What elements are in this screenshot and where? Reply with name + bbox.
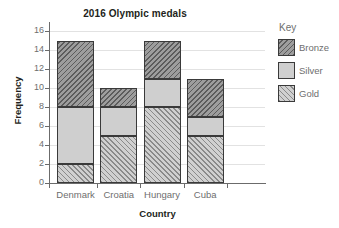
x-axis-title: Country xyxy=(49,208,266,219)
y-tick-label-wrap: 6 xyxy=(0,121,44,130)
bar-segment-denmark-silver xyxy=(57,107,94,164)
legend-item-bronze[interactable]: Bronze xyxy=(278,37,339,57)
legend: Key BronzeSilverGold xyxy=(278,22,339,106)
legend-swatch-silver xyxy=(278,62,295,79)
y-tick-label: 6 xyxy=(10,121,44,130)
legend-item-silver[interactable]: Silver xyxy=(278,60,339,80)
bar-segment-hungary-bronze xyxy=(144,41,181,79)
y-tick-label-wrap: 14 xyxy=(0,45,44,54)
y-tick-label-wrap: 16 xyxy=(0,26,44,35)
chart-title: 2016 Olympic medals xyxy=(0,8,270,19)
legend-label-bronze: Bronze xyxy=(299,42,329,53)
y-tick-label-wrap: 10 xyxy=(0,83,44,92)
x-tick-label-cuba: Cuba xyxy=(175,190,235,200)
y-tick-mark xyxy=(45,145,49,146)
bar-segment-hungary-gold xyxy=(144,107,181,183)
chart-container: 2016 Olympic medals Frequency 0246810121… xyxy=(0,0,339,228)
bar-segment-croatia-silver xyxy=(100,107,137,135)
y-tick-label: 4 xyxy=(10,140,44,149)
legend-item-gold[interactable]: Gold xyxy=(278,83,339,103)
bar-hungary xyxy=(144,22,181,183)
bar-segment-denmark-bronze xyxy=(57,41,94,107)
legend-swatch-gold xyxy=(278,85,295,102)
y-tick-label: 0 xyxy=(10,178,44,187)
y-tick-label: 10 xyxy=(10,83,44,92)
bar-segment-croatia-bronze xyxy=(100,88,137,107)
y-tick-label-wrap: 0 xyxy=(0,178,44,187)
x-tick-mark xyxy=(227,184,228,188)
y-tick-label: 16 xyxy=(10,26,44,35)
legend-swatch-bronze xyxy=(278,39,295,56)
legend-items: BronzeSilverGold xyxy=(278,37,339,103)
bar-segment-denmark-gold xyxy=(57,164,94,183)
x-tick-mark xyxy=(97,184,98,188)
bar-segment-cuba-gold xyxy=(187,136,224,183)
legend-title: Key xyxy=(278,22,339,34)
y-tick-mark xyxy=(45,69,49,70)
y-tick-mark xyxy=(45,31,49,32)
bar-croatia xyxy=(100,22,137,183)
x-tick-mark xyxy=(140,184,141,188)
x-tick-mark xyxy=(184,184,185,188)
y-tick-label: 2 xyxy=(10,159,44,168)
legend-label-silver: Silver xyxy=(299,65,323,76)
bar-cuba xyxy=(187,22,224,183)
y-tick-label: 8 xyxy=(10,102,44,111)
y-tick-label-wrap: 2 xyxy=(0,159,44,168)
y-tick-label: 14 xyxy=(10,45,44,54)
y-axis-line xyxy=(49,22,50,184)
bar-segment-cuba-silver xyxy=(187,117,224,136)
x-tick-mark xyxy=(49,184,50,188)
y-tick-mark xyxy=(45,107,49,108)
bar-denmark xyxy=(57,22,94,183)
bar-segment-cuba-bronze xyxy=(187,79,224,117)
y-tick-label: 12 xyxy=(10,64,44,73)
y-tick-mark xyxy=(45,88,49,89)
y-tick-mark xyxy=(45,50,49,51)
y-tick-label-wrap: 12 xyxy=(0,64,44,73)
y-tick-mark xyxy=(45,126,49,127)
bar-segment-croatia-gold xyxy=(100,136,137,183)
x-axis-line xyxy=(49,183,266,184)
y-tick-label-wrap: 4 xyxy=(0,140,44,149)
y-axis-title: Frequency xyxy=(12,46,23,156)
bar-segment-hungary-silver xyxy=(144,79,181,107)
y-tick-label-wrap: 8 xyxy=(0,102,44,111)
legend-label-gold: Gold xyxy=(299,88,319,99)
y-tick-mark xyxy=(45,164,49,165)
